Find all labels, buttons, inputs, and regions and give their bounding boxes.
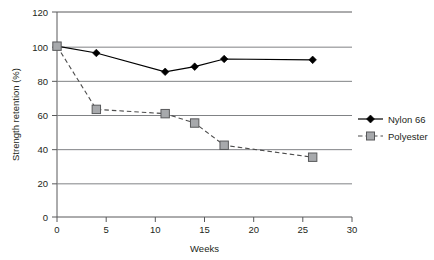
x-axis-ticks [57, 217, 352, 222]
x-tick-label-10: 10 [150, 224, 161, 235]
data-point-diamond [191, 63, 199, 71]
y-tick-label-40: 40 [37, 144, 48, 155]
y-tick-label-120: 120 [32, 7, 48, 18]
chart-container: 0 20 40 60 80 100 120 0 5 10 15 20 25 30 [0, 0, 434, 260]
x-tick-label-0: 0 [54, 224, 59, 235]
y-axis-title: Strength retention (%) [10, 68, 21, 161]
legend-entry-nylon-66[interactable]: Nylon 66 [358, 114, 426, 125]
y-tick-label-20: 20 [37, 178, 48, 189]
data-point-diamond [309, 56, 317, 64]
x-tick-label-30: 30 [347, 224, 358, 235]
plot-area [57, 12, 352, 217]
x-tick-label-20: 20 [248, 224, 259, 235]
data-point-square [53, 42, 61, 50]
data-point-square [308, 153, 316, 161]
x-axis-title: Weeks [190, 243, 219, 254]
legend-label-polyester: Polyester [388, 131, 428, 142]
legend-entry-polyester[interactable]: Polyester [358, 131, 428, 142]
y-tick-label-0: 0 [43, 212, 48, 223]
gridlines [57, 47, 352, 184]
legend-square-icon [367, 132, 375, 140]
data-point-square [220, 141, 228, 149]
x-axis-tick-labels: 0 5 10 15 20 25 30 [54, 224, 357, 235]
legend: Nylon 66 Polyester [358, 114, 428, 142]
legend-label-nylon-66: Nylon 66 [388, 114, 426, 125]
y-axis-tick-labels: 0 20 40 60 80 100 120 [32, 7, 48, 223]
data-point-diamond [161, 68, 169, 76]
data-point-square [161, 109, 169, 117]
y-tick-label-100: 100 [32, 42, 48, 53]
x-tick-label-5: 5 [104, 224, 109, 235]
line-chart: 0 20 40 60 80 100 120 0 5 10 15 20 25 30 [0, 0, 434, 260]
data-point-square [190, 119, 198, 127]
data-point-diamond [220, 55, 228, 63]
x-tick-label-15: 15 [199, 224, 210, 235]
x-tick-label-25: 25 [298, 224, 309, 235]
series-layer [53, 42, 317, 161]
legend-diamond-icon [367, 115, 375, 123]
y-tick-label-60: 60 [37, 110, 48, 121]
y-tick-label-80: 80 [37, 76, 48, 87]
data-point-diamond [93, 49, 101, 57]
data-point-square [92, 105, 100, 113]
series-line-polyester [57, 46, 313, 157]
